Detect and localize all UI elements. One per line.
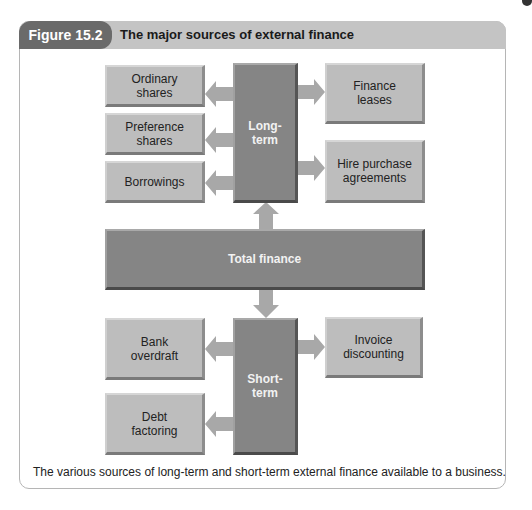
box-debt-factoring: Debt factoring: [105, 393, 205, 455]
arrow-up-icon: [253, 202, 279, 229]
arrow-left-icon: [205, 411, 233, 437]
arrow-left-icon: [205, 127, 233, 153]
box-finance-leases: Finance leases: [325, 63, 425, 124]
box-borrowings: Borrowings: [105, 161, 205, 203]
box-short-term: Short- term: [233, 318, 298, 455]
arrow-right-icon: [298, 79, 325, 105]
box-hire-purchase-agreements: Hire purchase agreements: [325, 140, 425, 203]
box-invoice-discounting: Invoice discounting: [325, 317, 423, 378]
box-ordinary-shares: Ordinary shares: [105, 65, 205, 107]
arrow-right-icon: [298, 155, 325, 181]
arrow-right-icon: [298, 334, 325, 360]
box-bank-overdraft: Bank overdraft: [105, 318, 205, 380]
arrow-left-icon: [205, 81, 233, 107]
arrow-left-icon: [205, 170, 233, 196]
arrow-left-icon: [205, 336, 233, 362]
box-total-finance: Total finance: [105, 229, 425, 290]
figure-caption: The various sources of long-term and sho…: [33, 465, 506, 479]
arrow-down-icon: [253, 290, 279, 318]
box-preference-shares: Preference shares: [105, 113, 205, 155]
box-long-term: Long- term: [233, 63, 298, 203]
